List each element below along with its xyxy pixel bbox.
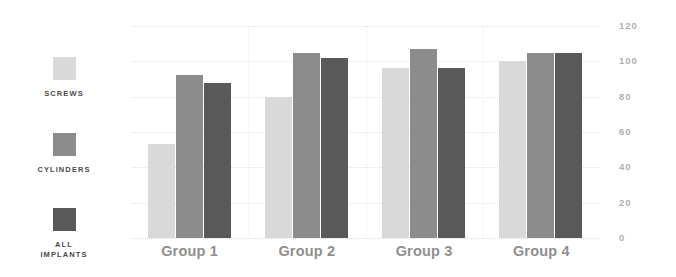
legend-item-cylinders: CYLINDERS	[0, 133, 128, 175]
bar	[293, 53, 320, 239]
bar	[204, 83, 231, 238]
bar	[148, 144, 175, 238]
legend-item-all-implants: ALL IMPLANTS	[0, 208, 128, 260]
bar	[176, 75, 203, 238]
bar	[410, 49, 437, 238]
x-axis-tick-label: Group 4	[500, 243, 583, 259]
bar-group	[382, 26, 466, 238]
y-axis-tick-label: 120	[600, 20, 660, 31]
bar	[555, 53, 582, 239]
legend-label-screws: SCREWS	[0, 89, 128, 99]
bar-group	[499, 26, 583, 238]
y-axis-tick-label: 20	[600, 197, 660, 208]
bar	[527, 53, 554, 239]
legend-swatch-all-implants	[53, 208, 76, 231]
bar-group	[265, 26, 349, 238]
y-axis-tick-label: 60	[600, 126, 660, 137]
x-axis-tick-label: Group 1	[148, 243, 231, 259]
legend-item-screws: SCREWS	[0, 57, 128, 99]
plot-area	[131, 26, 600, 238]
bar	[438, 68, 465, 238]
legend-swatch-cylinders	[53, 133, 76, 156]
bar	[265, 97, 292, 238]
legend-label-cylinders: CYLINDERS	[0, 165, 128, 175]
x-axis-tick-label: Group 3	[383, 243, 466, 259]
bar-chart-figure: SCREWS CYLINDERS ALL IMPLANTS 1201008060…	[0, 0, 676, 277]
gridline	[131, 238, 600, 239]
y-axis-tick-label: 100	[600, 55, 660, 66]
x-axis: Group 1Group 2Group 3Group 4	[131, 243, 600, 267]
bar	[499, 61, 526, 238]
y-axis-tick-label: 0	[600, 232, 660, 243]
bar	[321, 58, 348, 238]
bar-series-container	[131, 26, 600, 238]
bar	[382, 68, 409, 238]
y-axis-tick-label: 40	[600, 161, 660, 172]
bar-group	[148, 26, 232, 238]
y-axis: 120100806040200	[600, 0, 676, 277]
chart-legend: SCREWS CYLINDERS ALL IMPLANTS	[0, 0, 128, 277]
legend-label-all-implants: ALL IMPLANTS	[0, 240, 128, 260]
y-axis-tick-label: 80	[600, 91, 660, 102]
legend-swatch-screws	[53, 57, 76, 80]
x-axis-tick-label: Group 2	[265, 243, 348, 259]
